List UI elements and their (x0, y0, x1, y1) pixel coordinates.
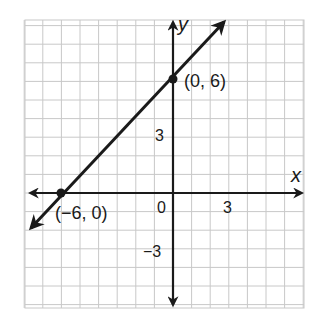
coordinate-plane: y x (0, 6) (−6, 0) 3 0 3 −3 (0, 0, 316, 329)
origin-label: 0 (157, 199, 166, 216)
point-neg6-0 (57, 189, 66, 198)
x-tick-3: 3 (223, 199, 232, 216)
y-axis-label: y (176, 13, 189, 35)
y-tick-3: 3 (155, 127, 164, 144)
point-b-label: (0, 6) (184, 71, 226, 91)
point-a-label: (−6, 0) (55, 203, 108, 223)
y-tick-neg3: −3 (143, 243, 161, 260)
x-axis-label: x (290, 164, 302, 186)
point-0-6 (169, 75, 178, 84)
grid (24, 20, 304, 308)
